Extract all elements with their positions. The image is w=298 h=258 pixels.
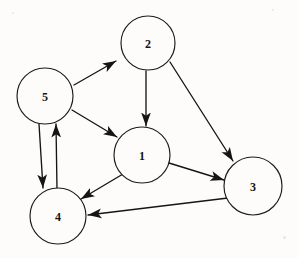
node-label-4: 4 <box>55 210 61 224</box>
graph-node-5: 5 <box>17 68 73 124</box>
graph-edge-5-to-1 <box>72 110 117 137</box>
node-label-5: 5 <box>42 90 48 104</box>
graph-edge-1-to-3 <box>169 163 224 180</box>
graph-diagram: 12345 <box>0 0 298 258</box>
graph-edge-5-to-4 <box>39 124 43 188</box>
graph-canvas: 12345 <box>0 0 298 258</box>
graph-node-1: 1 <box>114 127 170 183</box>
graph-edge-4-to-5 <box>56 124 57 190</box>
node-label-3: 3 <box>250 180 256 194</box>
graph-node-3: 3 <box>224 157 282 215</box>
graph-edge-1-to-4 <box>81 174 123 199</box>
node-label-1: 1 <box>139 149 145 163</box>
graph-edge-3-to-4 <box>88 198 228 215</box>
graph-node-4: 4 <box>30 188 86 244</box>
graph-node-2: 2 <box>121 16 175 70</box>
graph-edge-2-to-3 <box>170 62 233 161</box>
node-label-2: 2 <box>145 37 151 51</box>
graph-edge-5-to-2 <box>74 61 116 85</box>
